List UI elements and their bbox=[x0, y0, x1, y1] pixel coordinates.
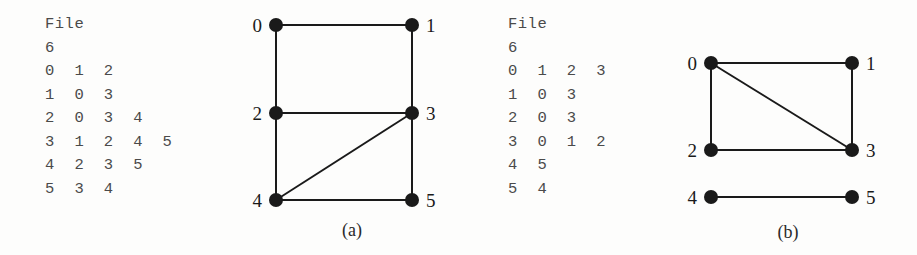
file-listing-b: File60 1 2 31 0 32 0 33 0 1 24 55 4 bbox=[508, 13, 606, 201]
graph-node bbox=[845, 143, 859, 157]
file-line: 1 0 3 bbox=[508, 84, 606, 108]
node-label: 4 bbox=[688, 188, 698, 207]
graph-node bbox=[405, 106, 419, 120]
node-label: 2 bbox=[253, 104, 263, 123]
graph-node bbox=[845, 56, 859, 70]
caption-b: (b) bbox=[778, 222, 799, 243]
graph-edge bbox=[276, 113, 412, 200]
file-line: 6 bbox=[508, 37, 606, 61]
file-line: 2 0 3 4 bbox=[45, 107, 172, 131]
graph-drawing-b bbox=[660, 0, 917, 255]
graph-node bbox=[704, 190, 718, 204]
file-line: File bbox=[45, 13, 172, 37]
file-line: File bbox=[508, 13, 606, 37]
figure-container: File60 1 21 0 32 0 3 43 1 2 4 54 2 3 55 … bbox=[0, 0, 917, 255]
node-label: 1 bbox=[866, 54, 876, 73]
node-label: 5 bbox=[866, 188, 876, 207]
file-line: 0 1 2 3 bbox=[508, 60, 606, 84]
graph-node bbox=[269, 193, 283, 207]
file-line: 5 4 bbox=[508, 178, 606, 202]
graph-edge bbox=[711, 63, 852, 150]
graph-node bbox=[704, 143, 718, 157]
graph-node bbox=[845, 190, 859, 204]
file-line: 6 bbox=[45, 37, 172, 61]
graph-drawing-a bbox=[230, 0, 460, 255]
graph-node bbox=[704, 56, 718, 70]
node-label: 4 bbox=[253, 191, 263, 210]
node-label: 3 bbox=[426, 104, 436, 123]
graph-panel-b: 012345 bbox=[660, 0, 917, 255]
file-line: 4 5 bbox=[508, 154, 606, 178]
node-label: 1 bbox=[426, 16, 436, 35]
node-label: 5 bbox=[426, 191, 436, 210]
graph-node bbox=[405, 18, 419, 32]
node-label: 0 bbox=[253, 16, 263, 35]
file-line: 3 1 2 4 5 bbox=[45, 131, 172, 155]
file-line: 2 0 3 bbox=[508, 107, 606, 131]
graph-panel-a: 012345 bbox=[230, 0, 460, 255]
graph-node bbox=[405, 193, 419, 207]
file-line: 4 2 3 5 bbox=[45, 154, 172, 178]
graph-node bbox=[269, 106, 283, 120]
file-line: 5 3 4 bbox=[45, 178, 172, 202]
file-line: 0 1 2 bbox=[45, 60, 172, 84]
graph-node bbox=[269, 18, 283, 32]
file-listing-a: File60 1 21 0 32 0 3 43 1 2 4 54 2 3 55 … bbox=[45, 13, 172, 201]
file-line: 3 0 1 2 bbox=[508, 131, 606, 155]
node-label: 2 bbox=[688, 141, 698, 160]
node-label: 0 bbox=[688, 54, 698, 73]
caption-a: (a) bbox=[342, 220, 362, 241]
node-label: 3 bbox=[866, 141, 876, 160]
file-line: 1 0 3 bbox=[45, 84, 172, 108]
